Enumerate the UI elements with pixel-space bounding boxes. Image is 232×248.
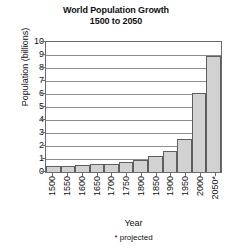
x-axis-tick-label: 1650 xyxy=(92,176,101,196)
y-axis-tick-mark xyxy=(41,41,45,42)
chart-title-main: World Population Growth xyxy=(0,5,232,16)
bar xyxy=(163,151,178,172)
x-axis-tick-label: 1500 xyxy=(48,176,57,196)
plot-inner xyxy=(46,42,221,172)
x-axis-tick-label: 1550 xyxy=(63,176,72,196)
y-axis-tick-mark xyxy=(41,54,45,55)
x-axis-tick: 1700 xyxy=(104,176,119,218)
x-axis-tick: 1750 xyxy=(119,176,134,218)
y-axis-tick-mark xyxy=(41,171,45,172)
x-axis-tick-label: 1850 xyxy=(151,176,160,196)
x-axis-ticks: 1500155016001650170017501800185019001950… xyxy=(45,176,222,218)
x-axis-tick: 1900 xyxy=(163,176,178,218)
bar xyxy=(148,156,163,172)
bar xyxy=(104,164,119,172)
bar xyxy=(177,139,192,172)
y-axis-tick-mark xyxy=(41,158,45,159)
bar xyxy=(75,165,90,172)
x-axis-tick-label: 1750 xyxy=(122,176,131,196)
x-axis-title: Year xyxy=(45,218,222,228)
bar xyxy=(90,164,105,172)
x-axis-tick: 1600 xyxy=(75,176,90,218)
bar-series xyxy=(46,42,221,172)
bar xyxy=(206,56,221,172)
x-axis-tick: 1800 xyxy=(134,176,149,218)
bar xyxy=(133,160,148,172)
chart-subtitle: 1500 to 2050 xyxy=(0,16,232,27)
x-axis-tick: 1950 xyxy=(178,176,193,218)
x-axis-tick: 2050* xyxy=(207,176,222,218)
y-axis-tick-mark xyxy=(41,145,45,146)
x-axis-tick-label: 1900 xyxy=(166,176,175,196)
y-axis-tick-mark xyxy=(41,119,45,120)
chart-footnote: * projected xyxy=(45,233,222,242)
plot-area xyxy=(45,41,222,173)
x-axis-tick: 1500 xyxy=(45,176,60,218)
y-axis-tick-mark xyxy=(41,93,45,94)
x-axis-tick: 1650 xyxy=(89,176,104,218)
x-axis-tick-label: 2000 xyxy=(195,176,204,196)
y-axis-tick-mark xyxy=(41,106,45,107)
x-axis-tick: 1550 xyxy=(60,176,75,218)
x-axis-tick-label: 1800 xyxy=(136,176,145,196)
x-axis-tick: 1850 xyxy=(148,176,163,218)
x-axis-tick: 2000 xyxy=(193,176,208,218)
y-axis-tick-mark xyxy=(41,132,45,133)
bar xyxy=(119,162,134,172)
chart-title: World Population Growth 1500 to 2050 xyxy=(0,5,232,27)
x-axis-tick-label: 1950 xyxy=(181,176,190,196)
y-axis-tick-mark xyxy=(41,80,45,81)
x-axis-tick-label: 1600 xyxy=(77,176,86,196)
y-axis-tick-mark xyxy=(41,67,45,68)
population-growth-bar-chart: World Population Growth 1500 to 2050 Pop… xyxy=(0,0,232,248)
x-axis-tick-label: 1700 xyxy=(107,176,116,196)
bar xyxy=(192,93,207,172)
x-axis-tick-label: 2050* xyxy=(210,176,219,200)
